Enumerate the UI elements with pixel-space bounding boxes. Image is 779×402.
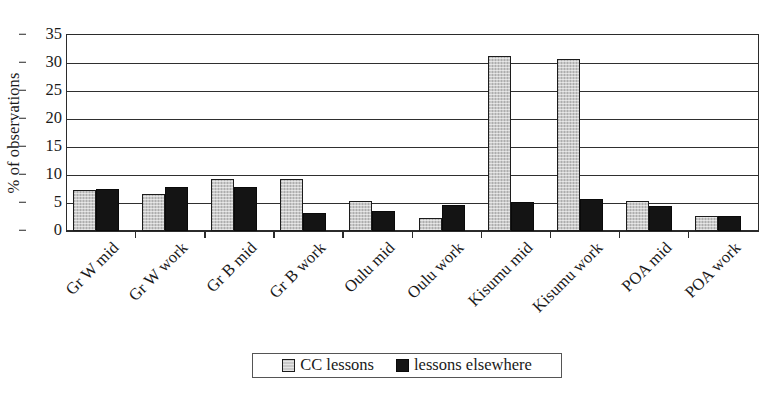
bar-cc-lessons [142, 194, 165, 231]
bar-cc-lessons [73, 190, 96, 231]
legend-swatch-dark [396, 359, 409, 372]
x-axis-category-label-text: Oulu work [403, 238, 468, 303]
bar-lessons-elsewhere [165, 187, 188, 231]
y-axis-tick-mark [19, 90, 26, 91]
bar-cc-lessons [626, 201, 649, 231]
bar-cc-lessons [557, 59, 580, 231]
y-axis-tick-label: 10 [26, 166, 62, 183]
x-axis-category-label-text: Gr W work [125, 238, 192, 305]
y-axis-tick-mark [19, 34, 26, 35]
y-axis-tick-mark [19, 62, 26, 63]
x-axis-category-label-text: Gr B mid [202, 238, 261, 297]
bar-lessons-elsewhere [649, 206, 672, 231]
bar-lessons-elsewhere [442, 205, 465, 231]
y-axis-tick-mark [19, 146, 26, 147]
bar-cc-lessons [211, 179, 234, 231]
x-axis-category-label-text: Kisumu mid [465, 238, 538, 311]
y-axis-title: % of observations [0, 30, 28, 235]
legend-swatch-light [282, 359, 295, 372]
bar-group [274, 35, 343, 231]
bar-lessons-elsewhere [718, 216, 741, 231]
legend-entry: lessons elsewhere [396, 357, 532, 374]
y-axis-tick-label: 20 [26, 110, 62, 127]
bar-cc-lessons [488, 56, 511, 231]
chart-legend: CC lessonslessons elsewhere [252, 353, 562, 378]
bar-lessons-elsewhere [372, 211, 395, 231]
bar-lessons-elsewhere [96, 189, 119, 231]
y-axis-tick-label: 35 [26, 26, 62, 43]
bar-group [136, 35, 205, 231]
y-axis-tick-label: 30 [26, 54, 62, 71]
x-axis-category-label-text: Gr W mid [61, 238, 123, 300]
x-axis-category-label-text: POA mid [617, 238, 675, 296]
bar-cc-lessons [695, 216, 718, 231]
y-axis-tick-label: 5 [26, 194, 62, 211]
y-axis-tick-mark [19, 118, 26, 119]
bar-group [205, 35, 274, 231]
bar-lessons-elsewhere [580, 199, 603, 231]
bar-cc-lessons [349, 201, 372, 231]
bar-cc-lessons [419, 218, 442, 231]
bar-group [482, 35, 551, 231]
y-axis-tick-label: 15 [26, 138, 62, 155]
x-axis-category-label-text: Kisumu work [528, 238, 607, 317]
bar-group [551, 35, 620, 231]
bar-chart-figure: % of observations 05101520253035 Gr W mi… [0, 0, 779, 402]
x-axis-category-label-text: Gr B work [266, 238, 331, 303]
y-axis-tick-mark [19, 174, 26, 175]
x-axis-category-label-text: Oulu mid [340, 238, 399, 297]
y-axis-tick-mark [19, 202, 26, 203]
bar-lessons-elsewhere [511, 202, 534, 231]
bar-lessons-elsewhere [234, 187, 257, 231]
bar-group [67, 35, 136, 231]
bar-cc-lessons [280, 179, 303, 231]
legend-label: lessons elsewhere [414, 357, 532, 374]
legend-entry: CC lessons [282, 357, 374, 374]
legend-label: CC lessons [300, 357, 374, 374]
y-axis-tick-label: 25 [26, 82, 62, 99]
x-axis-category-labels: Gr W midGr W workGr B midGr B workOulu m… [0, 238, 779, 346]
bar-lessons-elsewhere [303, 213, 326, 231]
x-axis-category-label-text: POA work [681, 238, 745, 302]
